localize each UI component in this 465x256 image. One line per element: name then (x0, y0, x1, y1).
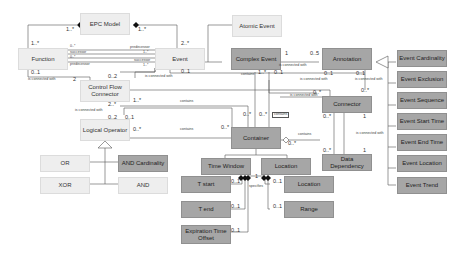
mult-cont-br: 0..* (288, 141, 296, 147)
class-and-cardinality: AND Cardinality (118, 155, 168, 172)
mult-ce-1star: 1..* (258, 70, 266, 76)
mult-cfc-02: 0..2 (108, 74, 117, 80)
mult-dd-1: 1 (363, 148, 366, 154)
mult-event-01: 0..1 (181, 69, 190, 75)
assoc-contains-5: contains (298, 133, 311, 137)
assoc-is-connected-with-8: is connected with (356, 132, 384, 136)
mult-tw-01b: 0..1 (231, 204, 240, 210)
class-atomic-event: Atomic Event (232, 15, 282, 37)
class-annotation: Annotation (322, 48, 372, 70)
class-data-dependency: Data Dependency (322, 154, 372, 171)
mult-func-01: 0..1 (31, 70, 40, 76)
class-expiration-time-offset: Expiration Time Offset (181, 225, 231, 244)
class-event: Event (155, 48, 205, 70)
mult-conn-left: 0..* (313, 90, 321, 96)
assoc-contains-2: contains (180, 100, 193, 104)
mult-tw-01a: 0..1 (231, 179, 240, 185)
class-location: Location (261, 158, 311, 175)
class-function: Function (18, 48, 68, 70)
mult-tw-1: 1 (255, 174, 258, 180)
assoc-is-connected-with-7: is connected with (75, 109, 103, 113)
class-event-start-time: Event Start Time (397, 113, 447, 130)
mult-cont-t2: 0..* (259, 112, 267, 118)
class-event-trend: Event Trend (397, 177, 447, 194)
mult-ann-01b: 0..1 (356, 71, 365, 77)
mult-tw-01c: 0..1 (231, 228, 240, 234)
mult-cont-left: 0..* (221, 125, 229, 131)
class-range: Range (284, 201, 334, 218)
class-t-start: T start (181, 176, 231, 193)
assoc-contains-3: contains (180, 128, 193, 132)
class-epc-model: EPC Model (80, 13, 130, 35)
class-and: AND (118, 177, 168, 194)
class-connector: Connector (322, 96, 372, 113)
class-container: Container (231, 127, 281, 149)
assoc-is-connected-with-5: is connected with (355, 78, 383, 82)
mult-conn-1: 1 (363, 114, 366, 120)
class-logical-operator: Logical Operator (80, 119, 130, 141)
mult-cfc-1star: 1..* (133, 98, 141, 104)
mult-lo-02: 0..2 (108, 115, 117, 121)
mult-conn-top: 0..* (361, 88, 369, 94)
class-event-cardinality: Event Cardinality (397, 50, 447, 67)
class-complex-event: Complex Event (231, 48, 281, 70)
mult-lo-01: 0..1 (125, 115, 134, 121)
mult-ann-01a: 0..1 (324, 71, 333, 77)
class-t-end: T end (181, 201, 231, 218)
mult-ce-01: 0..1 (274, 70, 283, 76)
assoc-contains-1: contains (241, 73, 254, 77)
mult-f2: 0..* (70, 56, 75, 60)
assoc-specifies: specifies (249, 185, 263, 189)
mult-dd-0star: 0..* (323, 148, 331, 154)
class-location-sub: Location (284, 176, 334, 193)
mult-loc-01b: 0..1 (273, 204, 282, 210)
class-xor: XOR (40, 177, 90, 194)
mult-ce-1: 1 (285, 51, 288, 57)
class-time-window: Time Window (201, 158, 251, 175)
mult-e2: 1..* (143, 64, 148, 68)
mult-conn-bl: 0..* (323, 114, 331, 120)
assoc-is-connected-with-1: is connected with (28, 78, 56, 82)
mult-func-2: 2 (73, 77, 76, 83)
mult-ann-05: 0..5 (310, 51, 319, 57)
mult-lo-0star: 0..* (133, 127, 141, 133)
class-event-exclusion: Event Exclusion (397, 71, 447, 88)
mult-epc-func: 1..* (66, 27, 74, 33)
mult-cont-t1: 0..* (243, 112, 251, 118)
class-or: OR (40, 155, 90, 172)
class-event-sequence: Event Sequence (397, 92, 447, 109)
assoc-is-connected-with-4: is connected with (300, 78, 328, 82)
class-event-end-time: Event End Time (397, 134, 447, 151)
mult-cfc-2star: 2..* (108, 102, 116, 108)
role-predecessor-1: predecessor (70, 63, 90, 67)
mult-event-top: 2..* (181, 41, 189, 47)
mult-e1: 1..* (143, 51, 148, 55)
assoc-is-connected-with-2: is connected with (145, 75, 173, 79)
mult-loc-01a: 0..1 (273, 179, 282, 185)
assoc-contains-4: contains (272, 112, 289, 118)
mult-f1: 0..* (70, 45, 75, 49)
mult-func-top: 1..* (31, 41, 39, 47)
mult-epc-event: 1..* (138, 27, 146, 33)
class-event-location: Event Location (397, 155, 447, 172)
class-control-flow-connector: Control Flow Connector (80, 80, 130, 102)
assoc-is-connected-with-3: is connected with (279, 64, 307, 68)
